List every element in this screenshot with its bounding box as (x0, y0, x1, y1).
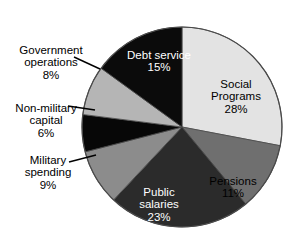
pie-chart: Debt service 15% Social Programs 28% Pen… (0, 0, 294, 249)
slice-label-government-operations: Government operations 8% (2, 31, 100, 81)
pie-slice-social-programs (182, 27, 282, 146)
slice-label-military-spending: Military spending 9% (6, 141, 90, 191)
slice-label-non-military-capital: Non-military capital 6% (2, 89, 90, 139)
slice-label-military-spending-text: Military spending (25, 154, 72, 179)
pie-slice-group (82, 27, 282, 227)
slice-value-government-operations: 8% (43, 69, 60, 81)
slice-label-government-operations-text: Government operations (19, 44, 82, 69)
slice-value-non-military-capital: 6% (38, 127, 55, 139)
slice-value-military-spending: 9% (40, 179, 57, 191)
slice-label-non-military-capital-text: Non-military capital (15, 102, 76, 127)
